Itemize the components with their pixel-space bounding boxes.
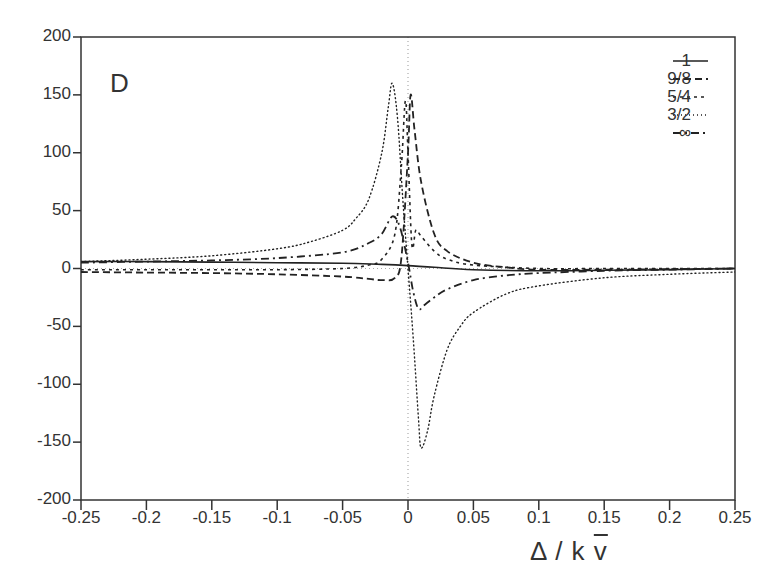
y-tick-label: -50 bbox=[7, 315, 71, 335]
x-tick-label: 0.05 bbox=[443, 508, 503, 528]
x-axis-title: Δ / k v bbox=[530, 536, 608, 567]
x-tick-label: 0.25 bbox=[705, 508, 765, 528]
x-tick-label: -0.05 bbox=[313, 508, 373, 528]
series-line-∞ bbox=[81, 216, 735, 309]
legend-entry: 3/2 bbox=[625, 106, 735, 124]
x-tick-label: 0.15 bbox=[574, 508, 634, 528]
y-tick-label: 50 bbox=[7, 200, 71, 220]
legend-label: 5/4 bbox=[667, 88, 691, 106]
legend-entry: 9/8 bbox=[625, 70, 735, 88]
panel-label: D bbox=[110, 68, 129, 99]
y-tick-label: 150 bbox=[7, 84, 71, 104]
legend-entry: 1 bbox=[625, 52, 735, 70]
x-tick-label: -0.1 bbox=[247, 508, 307, 528]
legend-entry: 5/4 bbox=[625, 88, 735, 106]
legend-entry: ∞ bbox=[625, 124, 735, 142]
x-tick-label: -0.15 bbox=[182, 508, 242, 528]
x-axis-title-prefix: Δ / k bbox=[530, 536, 594, 566]
legend-label: ∞ bbox=[679, 124, 691, 142]
x-axis-title-vbar: v bbox=[594, 536, 608, 566]
legend-label: 3/2 bbox=[667, 106, 691, 124]
y-tick-label: 100 bbox=[7, 142, 71, 162]
y-tick-label: -100 bbox=[7, 373, 71, 393]
legend-label: 1 bbox=[682, 52, 691, 70]
x-tick-label: 0.2 bbox=[640, 508, 700, 528]
x-tick-label: -0.25 bbox=[51, 508, 111, 528]
y-tick-label: -200 bbox=[7, 489, 71, 509]
y-tick-label: 200 bbox=[7, 26, 71, 46]
x-tick-label: -0.2 bbox=[116, 508, 176, 528]
legend-label: 9/8 bbox=[667, 70, 691, 88]
y-tick-label: 0 bbox=[7, 258, 71, 278]
x-tick-label: 0 bbox=[378, 508, 438, 528]
legend: 1 9/8 5/4 3/2 ∞ bbox=[625, 52, 735, 142]
y-tick-label: -150 bbox=[7, 431, 71, 451]
x-tick-label: 0.1 bbox=[509, 508, 569, 528]
